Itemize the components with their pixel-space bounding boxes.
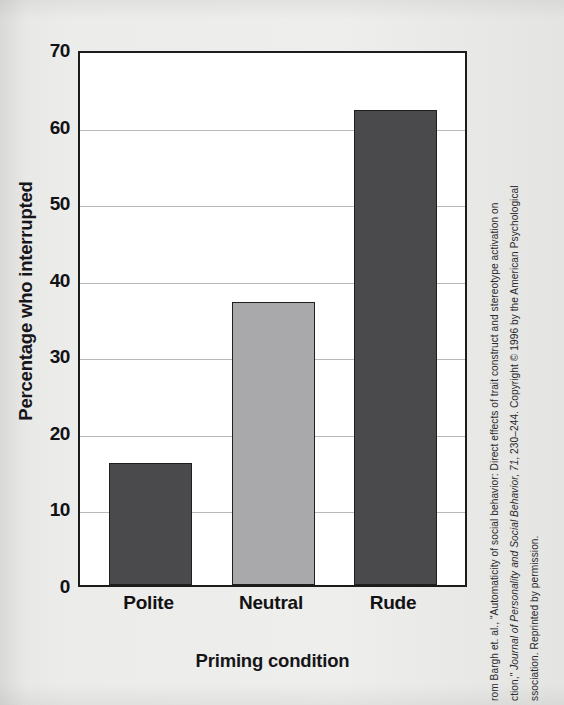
y-tick-label-60: 60 bbox=[8, 117, 70, 139]
y-tick-label-10: 10 bbox=[8, 499, 70, 521]
y-tick-label-0: 0 bbox=[8, 576, 70, 598]
bar-rude bbox=[354, 110, 437, 585]
credit-line-3: ssociation. Reprinted by permission. bbox=[529, 536, 540, 701]
y-tick-label-50: 50 bbox=[8, 193, 70, 215]
y-tick-label-20: 20 bbox=[8, 423, 70, 445]
credit-line-1: rom Bargh et. al., "Automaticity of soci… bbox=[489, 203, 500, 701]
x-tick-label-polite: Polite bbox=[79, 592, 219, 614]
x-tick-label-neutral: Neutral bbox=[201, 592, 341, 614]
bar-neutral bbox=[232, 302, 315, 585]
credit-line-2: ction," Journal of Personality and Socia… bbox=[509, 185, 520, 701]
plot-area bbox=[78, 51, 467, 587]
x-tick-label-rude: Rude bbox=[323, 592, 463, 614]
bar-chart-figure: Percentage who interrupted 0102030405060… bbox=[0, 0, 490, 705]
y-tick-label-70: 70 bbox=[8, 40, 70, 62]
source-credit-block: rom Bargh et. al., "Automaticity of soci… bbox=[487, 0, 564, 705]
y-tick-label-30: 30 bbox=[8, 346, 70, 368]
x-axis-title: Priming condition bbox=[78, 650, 467, 672]
y-tick-label-40: 40 bbox=[8, 270, 70, 292]
bar-polite bbox=[109, 463, 192, 586]
